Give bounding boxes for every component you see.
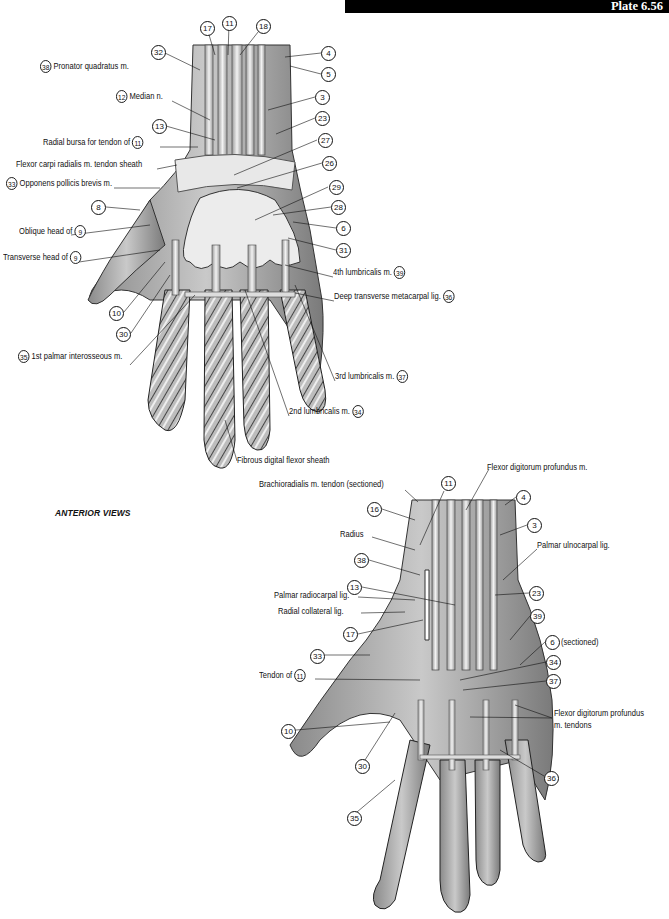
callout-number: 32 — [151, 45, 166, 60]
bottom-hand-illustration — [290, 500, 553, 912]
section-label-anterior-views: ANTERIOR VIEWS — [55, 508, 131, 518]
label-radius: Radius — [340, 529, 364, 540]
callout-number: 6 — [545, 635, 560, 650]
callout-number: 4 — [321, 46, 336, 61]
label-fcr-tendon-sheath: Flexor carpi radialis m. tendon sheath — [16, 159, 142, 170]
label-deep-transverse-metacarpal-lig: Deep transverse metacarpal lig. 36 — [334, 290, 454, 303]
label-3rd-lumbricalis: 3rd lumbricalis m. 37 — [335, 370, 408, 383]
label-opponens-pollicis-brevis: 33 Opponens pollicis brevis m. — [6, 177, 112, 190]
callout-number: 27 — [318, 133, 333, 148]
label-palmar-radiocarpal-lig: Palmar radiocarpal lig. — [274, 590, 349, 601]
label-transverse-head: Transverse head of 9 — [3, 251, 81, 264]
callout-number: 39 — [530, 609, 545, 624]
label-fdp-tendons-line2: m. tendons — [554, 720, 591, 731]
callout-number: 30 — [355, 759, 370, 774]
label-4th-lumbricalis: 4th lumbricalis m. 39 — [333, 266, 405, 279]
callout-number: 5 — [321, 67, 336, 82]
label-radial-collateral-lig: Radial collateral lig. — [278, 606, 344, 617]
label-1st-palmar-interosseous: 35 1st palmar interosseous m. — [18, 350, 122, 363]
callout-number: 6 — [336, 221, 351, 236]
callout-number: 3 — [315, 90, 330, 105]
callout-number: 4 — [516, 490, 531, 505]
callout-number: 38 — [354, 553, 369, 568]
callout-number: 36 — [544, 771, 559, 786]
label-oblique-head: Oblique head of 9 — [19, 225, 86, 238]
callout-number: 28 — [331, 200, 346, 215]
callout-number: 23 — [529, 586, 544, 601]
label-2nd-lumbricalis: 2nd lumbricalis m. 34 — [289, 405, 363, 418]
callout-number: 13 — [152, 119, 167, 134]
callout-number: 23 — [315, 111, 330, 126]
callout-number: 10 — [281, 724, 296, 739]
label-sectioned: (sectioned) — [561, 637, 598, 648]
callout-number: 16 — [367, 502, 382, 517]
callout-number: 34 — [546, 655, 561, 670]
label-palmar-ulnocarpal-lig: Palmar ulnocarpal lig. — [537, 540, 610, 551]
label-pronator-quadratus: 38 Pronator quadratus m. — [40, 60, 129, 73]
label-brachioradialis-tendon: Brachioradialis m. tendon (sectioned) — [259, 479, 384, 490]
callout-number: 18 — [256, 19, 271, 34]
callout-number: 35 — [347, 811, 362, 826]
callout-number: 33 — [310, 649, 325, 664]
callout-number: 26 — [322, 156, 337, 171]
callout-number: 11 — [441, 476, 456, 491]
callout-number: 17 — [200, 21, 215, 36]
callout-number: 37 — [546, 674, 561, 689]
callout-number: 8 — [91, 200, 106, 215]
callout-number: 3 — [527, 518, 542, 533]
callout-number: 29 — [329, 180, 344, 195]
label-fibrous-digital-flexor-sheath: Fibrous digital flexor sheath — [237, 455, 329, 466]
callout-number: 13 — [347, 580, 362, 595]
callout-number: 11 — [222, 16, 237, 31]
callout-number: 10 — [109, 306, 124, 321]
callout-number: 31 — [336, 243, 351, 258]
callout-number: 17 — [343, 627, 358, 642]
label-tendon-of: Tendon of 11 — [259, 669, 306, 682]
label-fdp-muscle: Flexor digitorum profundus m. — [487, 462, 587, 473]
label-radial-bursa: Radial bursa for tendon of 11 — [43, 136, 144, 149]
label-fdp-tendons-line1: Flexor digitorum profundus — [554, 708, 644, 719]
callout-number: 30 — [116, 327, 131, 342]
label-median-nerve: 12 Median n. — [116, 90, 163, 103]
